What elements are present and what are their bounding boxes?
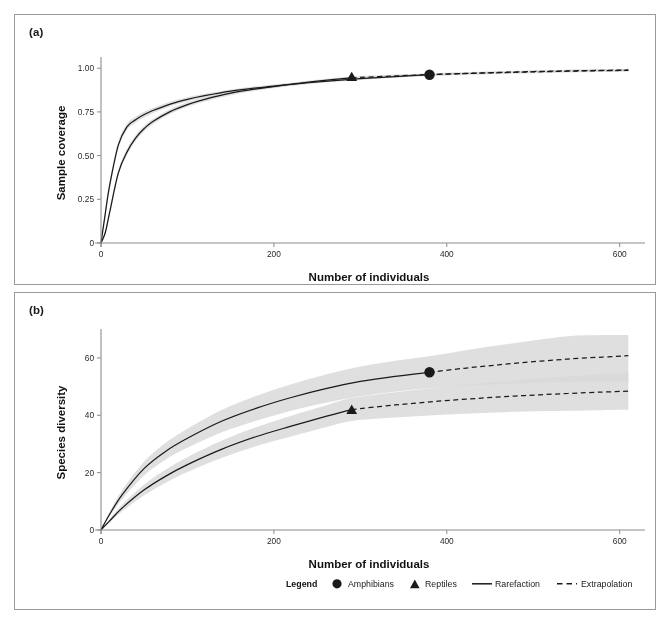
legend-label-extrapolation: Extrapolation [581, 579, 632, 589]
series-lines [101, 70, 628, 243]
y-tick-label: 40 [85, 410, 95, 420]
x-axis-title: Number of individuals [309, 558, 430, 570]
legend-label-rarefaction: Rarefaction [495, 579, 540, 589]
y-tick-label: 0.25 [78, 194, 95, 204]
y-axis-title: Species diversity [55, 385, 67, 480]
y-tick-label: 60 [85, 353, 95, 363]
x-tick-label: 200 [267, 536, 281, 546]
confidence-bands [101, 69, 628, 243]
confidence-bands [101, 335, 628, 530]
y-axis-title: Sample coverage [55, 106, 67, 201]
legend-label-reptiles: Reptiles [425, 579, 457, 589]
panel-a-plot: 020040060000.250.500.751.00Number of ind… [15, 15, 657, 286]
legend-circle-marker-icon [332, 579, 341, 588]
legend-triangle-marker-icon [410, 579, 420, 588]
y-tick-label: 0.75 [78, 107, 95, 117]
figure-root: (a) 020040060000.250.500.751.00Number of… [0, 0, 670, 624]
y-tick-label: 20 [85, 468, 95, 478]
x-tick-label: 200 [267, 249, 281, 259]
x-tick-label: 0 [99, 536, 104, 546]
x-tick-label: 400 [440, 536, 454, 546]
ci-band-amphibians [101, 335, 628, 530]
ci-band-reptiles [101, 69, 628, 243]
y-tick-label: 1.00 [78, 63, 95, 73]
marker-amphibians-circle [424, 367, 434, 377]
x-axis-title: Number of individuals [309, 271, 430, 283]
y-tick-label: 0 [89, 238, 94, 248]
panel-a-sample-coverage: (a) 020040060000.250.500.751.00Number of… [14, 14, 656, 285]
x-tick-label: 0 [99, 249, 104, 259]
ci-band-amphibians [101, 69, 628, 243]
panel-b-species-diversity: (b) 02004006000204060Number of individua… [14, 292, 656, 610]
legend-label-amphibians: Amphibians [348, 579, 395, 589]
rarefaction-line-reptiles [101, 78, 352, 243]
x-tick-label: 400 [440, 249, 454, 259]
marker-amphibians-circle [424, 70, 434, 80]
legend-title: Legend [286, 579, 317, 589]
x-tick-label: 600 [613, 249, 627, 259]
page-bleed-strip [0, 0, 670, 12]
panel-b-plot: 02004006000204060Number of individualsSp… [15, 293, 657, 611]
rarefaction-line-amphibians [101, 75, 430, 243]
x-tick-label: 600 [613, 536, 627, 546]
y-tick-label: 0 [89, 525, 94, 535]
y-tick-label: 0.50 [78, 151, 95, 161]
legend: LegendAmphibiansReptilesRarefactionExtra… [286, 579, 632, 589]
axes: 020040060000.250.500.751.00Number of ind… [55, 57, 645, 283]
